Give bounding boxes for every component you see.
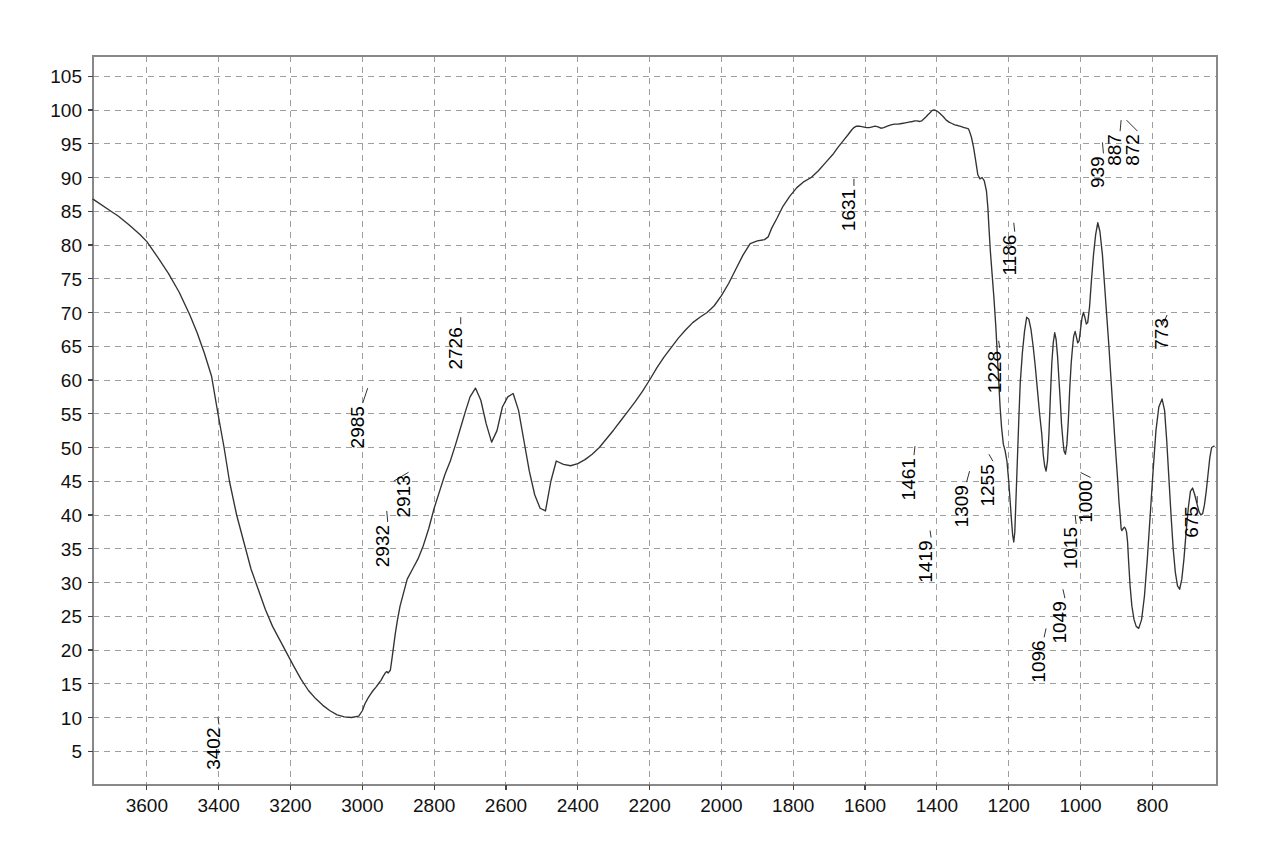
peak-label: 1631 (838, 189, 859, 231)
x-axis-tick-label: 3400 (198, 795, 240, 816)
y-axis-tick-label: 80 (61, 235, 82, 256)
y-axis-tick-label: 50 (61, 438, 82, 459)
y-axis-tick-label: 15 (61, 674, 82, 695)
x-axis-tick-label: 2200 (628, 795, 670, 816)
peak-label: 1000 (1075, 480, 1096, 522)
x-axis-tick-label: 1800 (772, 795, 814, 816)
x-axis-tick-label: 3600 (126, 795, 168, 816)
x-axis-tick-label: 2000 (700, 795, 742, 816)
y-axis-tick-label: 25 (61, 606, 82, 627)
peak-label: 1228 (984, 351, 1005, 393)
peak-label: 2985 (347, 406, 368, 448)
peak-label: 2726 (445, 327, 466, 369)
ir-spectrum-page: 5101520253035404550556065707580859095100… (0, 0, 1270, 850)
peak-label: 1186 (999, 235, 1020, 276)
peak-label: 1255 (977, 464, 998, 506)
peak-label: 1309 (951, 485, 972, 527)
peak-label: 1015 (1060, 527, 1081, 569)
y-axis-tick-label: 100 (50, 100, 82, 121)
y-axis-tick-label: 70 (61, 303, 82, 324)
y-axis-tick-label: 20 (61, 640, 82, 661)
y-axis-tick-label: 40 (61, 505, 82, 526)
y-axis-tick-label: 105 (50, 66, 82, 87)
y-axis-tick-label: 95 (61, 134, 82, 155)
x-axis-tick-label: 1200 (988, 795, 1030, 816)
chart-background (0, 0, 1270, 850)
x-axis-tick-label: 1400 (916, 795, 958, 816)
peak-label: 773 (1151, 318, 1172, 350)
peak-label: 1461 (898, 458, 919, 500)
x-axis-tick-label: 3000 (341, 795, 383, 816)
y-axis-tick-label: 30 (61, 573, 82, 594)
ir-spectrum-chart: 5101520253035404550556065707580859095100… (0, 0, 1270, 850)
x-axis-tick-label: 800 (1137, 795, 1169, 816)
peak-label: 1049 (1049, 601, 1070, 643)
peak-label: 872 (1122, 134, 1143, 166)
x-axis-tick-label: 3200 (269, 795, 311, 816)
x-axis-tick-label: 1600 (844, 795, 886, 816)
peak-label: 1419 (915, 541, 936, 583)
peak-label: 3402 (203, 728, 224, 770)
y-axis-tick-label: 35 (61, 539, 82, 560)
peak-label: 2913 (393, 475, 414, 517)
y-axis-tick-label: 65 (61, 336, 82, 357)
y-axis-tick-label: 45 (61, 471, 82, 492)
y-axis-tick-label: 5 (71, 741, 82, 762)
peak-label: 2932 (372, 525, 393, 567)
x-axis-tick-label: 2400 (557, 795, 599, 816)
y-axis-tick-label: 55 (61, 404, 82, 425)
y-axis-tick-label: 10 (61, 708, 82, 729)
peak-label: 1096 (1028, 640, 1049, 682)
x-axis-tick-label: 2800 (413, 795, 455, 816)
x-axis-tick-label: 1000 (1059, 795, 1101, 816)
peak-label: 675 (1181, 506, 1202, 538)
y-axis-tick-label: 60 (61, 370, 82, 391)
y-axis-tick-label: 75 (61, 269, 82, 290)
x-axis-tick-label: 2600 (485, 795, 527, 816)
y-axis-tick-label: 85 (61, 201, 82, 222)
y-axis-tick-label: 90 (61, 168, 82, 189)
